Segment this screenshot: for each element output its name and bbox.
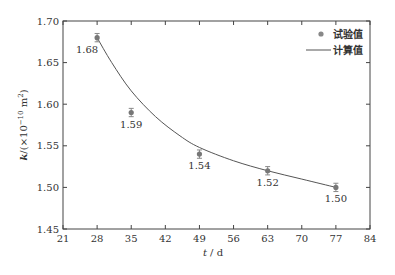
y-axis-exp: −10 — [17, 110, 25, 125]
x-axis-ticks: 21283542495663707784 — [57, 21, 377, 244]
x-tick-label: 28 — [91, 233, 104, 244]
x-tick-label: 56 — [227, 233, 240, 244]
x-tick-label: 77 — [330, 233, 343, 244]
experimental-points — [95, 33, 339, 191]
y-axis-unit-prefix: /(×10 — [18, 125, 29, 153]
data-point-label: 1.54 — [188, 160, 210, 171]
x-tick-label: 42 — [159, 233, 172, 244]
data-point — [265, 168, 270, 173]
y-axis-title: k/(×10−10 m2) — [17, 89, 29, 160]
legend-label-experimental: 试验值 — [333, 28, 363, 40]
x-axis-title: t / d — [203, 247, 224, 258]
chart-canvas: 21283542495663707784 1.451.501.551.601.6… — [0, 0, 395, 275]
svg-text:k/(×10−10 m2): k/(×10−10 m2) — [17, 89, 29, 160]
x-axis-unit: / d — [207, 247, 224, 258]
legend-dot-icon — [318, 31, 323, 36]
legend-label-calculated: 计算值 — [333, 44, 363, 56]
x-tick-label: 21 — [57, 233, 70, 244]
x-tick-label: 63 — [261, 233, 274, 244]
y-tick-label: 1.50 — [37, 182, 59, 193]
y-tick-label: 1.65 — [37, 57, 59, 68]
legend: 试验值 计算值 — [306, 28, 363, 56]
y-axis-close: ) — [18, 89, 29, 93]
data-point — [95, 35, 100, 40]
data-point-label: 1.59 — [120, 119, 142, 130]
y-tick-label: 1.60 — [37, 99, 59, 110]
data-point — [333, 185, 338, 190]
x-tick-label: 84 — [364, 233, 377, 244]
y-tick-label: 1.70 — [37, 16, 59, 27]
data-point-label: 1.68 — [76, 44, 98, 55]
y-tick-label: 1.45 — [37, 224, 59, 235]
data-point — [129, 110, 134, 115]
x-tick-label: 35 — [125, 233, 138, 244]
data-point-label: 1.50 — [325, 193, 347, 204]
y-tick-label: 1.55 — [37, 140, 59, 151]
x-tick-label: 70 — [295, 233, 308, 244]
data-point-label: 1.52 — [257, 177, 279, 188]
x-tick-label: 49 — [193, 233, 206, 244]
data-point — [197, 152, 202, 157]
y-axis-unit: m — [18, 97, 29, 110]
